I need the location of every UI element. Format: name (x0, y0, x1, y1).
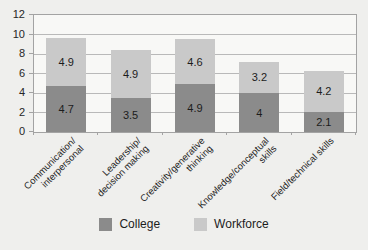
data-label: 3.2 (252, 71, 267, 83)
bar-segment-workforce: 4.9 (46, 38, 86, 86)
legend: College Workforce (0, 217, 368, 231)
y-tick-label: 0 (0, 125, 25, 137)
y-tick-label: 12 (0, 8, 25, 20)
y-tick-mark (29, 34, 33, 35)
x-tick-mark (97, 132, 98, 135)
bar-segment-workforce: 3.2 (239, 62, 279, 93)
data-label: 4.7 (59, 103, 74, 115)
data-label: 4 (256, 107, 262, 119)
y-tick-mark (29, 92, 33, 93)
data-label: 3.5 (123, 109, 138, 121)
y-tick-label: 2 (0, 106, 25, 118)
gridline (34, 34, 356, 35)
y-tick-mark (29, 73, 33, 74)
stacked-bar-chart: 4.74.93.54.94.94.643.22.14.2 024681012 C… (0, 0, 368, 250)
legend-swatch-college (99, 218, 112, 231)
data-label: 4.9 (59, 56, 74, 68)
data-label: 4.2 (316, 85, 331, 97)
legend-label-college: College (119, 217, 160, 231)
bar-segment-college: 3.5 (111, 98, 151, 132)
y-tick-label: 10 (0, 28, 25, 40)
data-label: 4.9 (187, 102, 202, 114)
x-tick-mark (226, 132, 227, 135)
y-tick-label: 6 (0, 67, 25, 79)
legend-swatch-workforce (194, 218, 207, 231)
y-tick-mark (29, 14, 33, 15)
x-tick-mark (355, 132, 356, 135)
data-label: 4.6 (187, 56, 202, 68)
bar-segment-workforce: 4.9 (111, 50, 151, 98)
y-tick-label: 4 (0, 86, 25, 98)
plot-area: 4.74.93.54.94.94.643.22.14.2 (33, 14, 357, 133)
y-tick-mark (29, 112, 33, 113)
x-tick-mark (33, 132, 34, 135)
y-tick-label: 8 (0, 47, 25, 59)
y-tick-mark (29, 53, 33, 54)
x-tick-mark (162, 132, 163, 135)
bar-segment-college: 2.1 (304, 112, 344, 132)
bar-segment-college: 4.9 (175, 84, 215, 132)
bar-segment-workforce: 4.6 (175, 39, 215, 84)
data-label: 4.9 (123, 68, 138, 80)
legend-item-college: College (99, 217, 160, 231)
bar-segment-workforce: 4.2 (304, 71, 344, 112)
x-tick-mark (291, 132, 292, 135)
bar-segment-college: 4.7 (46, 86, 86, 132)
legend-item-workforce: Workforce (194, 217, 268, 231)
legend-label-workforce: Workforce (214, 217, 268, 231)
bar-segment-college: 4 (239, 93, 279, 132)
data-label: 2.1 (316, 116, 331, 128)
